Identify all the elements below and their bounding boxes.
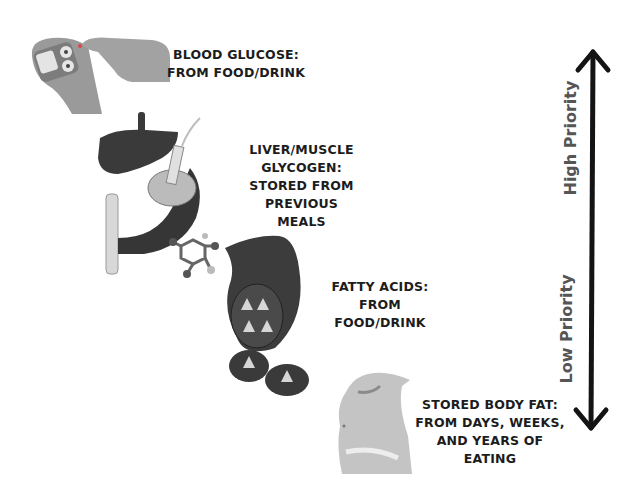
high-priority-label: High Priority xyxy=(561,96,580,196)
stage-label-glycogen: LIVER/MUSCLE GLYCOGEN: STORED FROM PREVI… xyxy=(214,141,389,231)
belly-fat-icon xyxy=(332,366,422,476)
stage-label-body-fat: STORED BODY FAT: FROM DAYS, WEEKS, AND Y… xyxy=(415,396,565,468)
finger-prick-glucose-meter-icon xyxy=(22,26,172,116)
low-priority-label: Low Priority xyxy=(557,284,576,384)
stage-label-blood-glucose: BLOOD GLUCOSE: FROM FOOD/DRINK xyxy=(166,46,306,82)
stage-label-fatty-acids: FATTY ACIDS: FROM FOOD/DRINK xyxy=(310,278,450,332)
fat-cell-icon xyxy=(215,228,325,398)
